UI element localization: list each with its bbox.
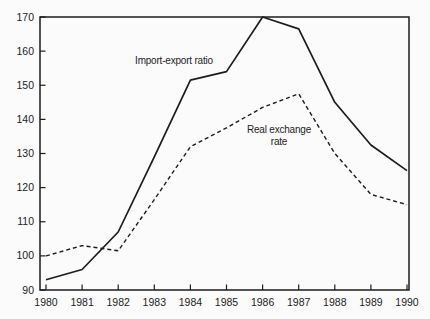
x-tick-label: 1990 <box>395 296 419 308</box>
x-tick-label: 1982 <box>107 296 131 308</box>
x-tick-label: 1981 <box>70 296 94 308</box>
y-tick-label: 90 <box>22 284 34 296</box>
y-tick-label: 140 <box>16 113 34 125</box>
x-tick-label: 1986 <box>251 296 275 308</box>
y-tick-label: 100 <box>16 249 34 261</box>
x-tick-label: 1989 <box>359 296 383 308</box>
series-line-import-export-ratio <box>46 17 407 280</box>
series-line-real-exchange-rate <box>46 94 407 256</box>
x-tick-label: 1985 <box>215 296 239 308</box>
y-tick-label: 130 <box>16 147 34 159</box>
series-label-import-export-ratio: Import-export ratio <box>135 55 213 67</box>
y-tick-label: 150 <box>16 79 34 91</box>
series-label-real-exchange-rate: Real exchange rate <box>247 124 311 148</box>
y-tick-label: 110 <box>17 215 34 227</box>
y-tick-label: 160 <box>16 45 34 57</box>
x-tick-label: 1987 <box>287 296 311 308</box>
x-tick-label: 1984 <box>179 296 203 308</box>
chart-canvas: 9010011012013014015016017019801981198219… <box>0 0 430 319</box>
x-tick-label: 1988 <box>323 296 347 308</box>
x-tick-label: 1980 <box>34 296 58 308</box>
y-tick-label: 170 <box>16 11 34 23</box>
line-chart-figure: 9010011012013014015016017019801981198219… <box>0 0 430 319</box>
plot-frame <box>40 17 409 290</box>
x-tick-label: 1983 <box>143 296 167 308</box>
y-tick-label: 120 <box>16 181 34 193</box>
